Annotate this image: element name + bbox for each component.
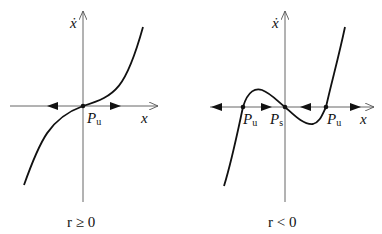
y-axis-label: ẋ — [69, 15, 77, 31]
flow-arrow-right — [110, 102, 121, 110]
bifurcation-diagram: ẋ x Pu r ≥ 0 ẋ x Pu Ps Pu r < 0 — [0, 0, 382, 234]
flow-arrow-left — [47, 102, 58, 110]
fixed-point-label: Pu — [86, 110, 101, 127]
condition-label: r < 0 — [268, 214, 296, 230]
x-axis-label: x — [359, 111, 367, 127]
fixed-point-label-pu-left: Pu — [242, 111, 257, 128]
fixed-point-label-pu-right: Pu — [326, 111, 341, 128]
flow-arrow-to-ps-from-right — [300, 103, 311, 111]
flow-arrow-far-right — [350, 103, 361, 111]
flow-arrow-to-ps-from-left — [261, 103, 272, 111]
y-axis-label: ẋ — [271, 15, 279, 31]
fixed-point-pu-left — [241, 105, 246, 110]
flow-arrow-far-left — [211, 103, 222, 111]
panel-right: ẋ x Pu Ps Pu r < 0 — [210, 11, 374, 230]
fixed-point-pu-right — [324, 105, 329, 110]
panel-left: ẋ x Pu r ≥ 0 — [10, 11, 158, 230]
x-axis-label: x — [140, 110, 148, 126]
condition-label: r ≥ 0 — [67, 214, 95, 230]
fixed-point-pu — [81, 104, 86, 109]
fixed-point-ps — [283, 105, 288, 110]
fixed-point-label-ps: Ps — [269, 111, 283, 128]
